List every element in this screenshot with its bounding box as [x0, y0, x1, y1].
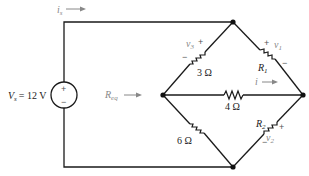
voltage-source: + −: [51, 82, 77, 108]
resistor-4ohm-value: 4 Ω: [225, 101, 240, 112]
node-bottom: [230, 164, 235, 169]
resistor-r1: [233, 22, 303, 95]
req-label: Req: [104, 89, 118, 102]
node-left: [160, 92, 165, 97]
source-current-arrowhead: [80, 7, 86, 12]
v1-plus: +: [264, 38, 269, 48]
source-plus-sign: +: [61, 84, 66, 94]
v3-plus: +: [198, 37, 203, 47]
source-current-label: is: [57, 4, 63, 17]
resistor-6ohm-value: 6 Ω: [177, 135, 192, 146]
v1-minus: −: [282, 58, 287, 68]
resistor-r2: [233, 95, 303, 167]
v3-label: v3: [186, 38, 194, 51]
req-arrowhead: [136, 93, 142, 98]
r2-label: R2: [255, 118, 266, 131]
v2-label: v2: [266, 132, 274, 145]
r1-label: R1: [257, 62, 268, 75]
circuit-diagram: + − Vs= 12 V is Req 3 Ω v3 + − R1 v1 + −…: [0, 0, 309, 176]
branch-current-label: i: [255, 76, 258, 87]
v2-plus: +: [279, 122, 284, 132]
resistor-3ohm: [163, 22, 233, 95]
resistor-3ohm-value: 3 Ω: [197, 67, 212, 78]
node-right: [300, 92, 305, 97]
v2-minus: −: [262, 137, 267, 147]
source-label: Vs= 12 V: [8, 90, 47, 103]
branch-current-arrowhead: [272, 80, 278, 85]
node-top: [230, 19, 235, 24]
v3-minus: −: [182, 52, 187, 62]
v1-label: v1: [274, 39, 282, 52]
resistor-6ohm: [163, 95, 233, 167]
resistor-4ohm: [163, 91, 303, 99]
source-minus-sign: −: [61, 97, 66, 107]
